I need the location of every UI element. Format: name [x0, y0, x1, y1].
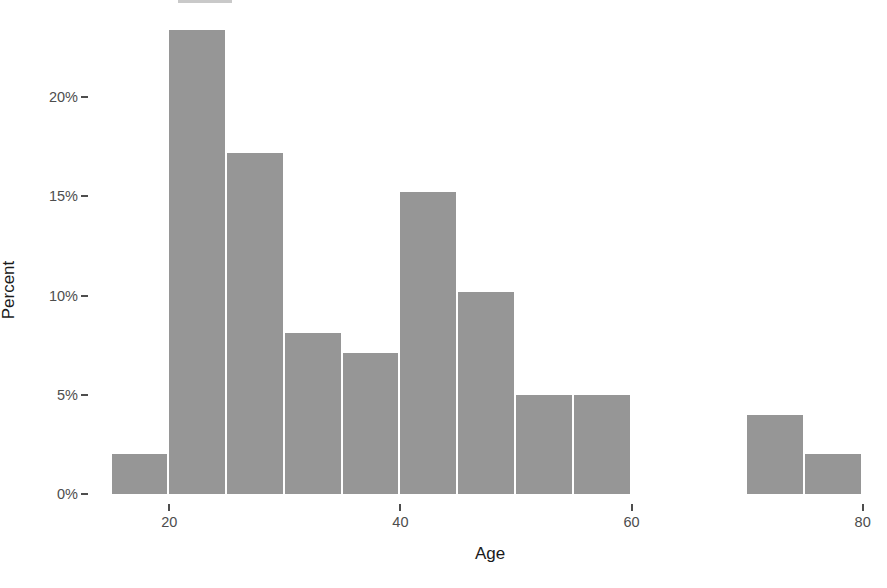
x-tick-label: 20 [161, 514, 177, 530]
plot-panel [100, 8, 880, 494]
x-tick-label: 40 [392, 514, 408, 530]
histogram-bar [343, 353, 399, 494]
top-edge-artifact [178, 0, 232, 3]
y-axis-title: Percent [0, 261, 19, 320]
x-tick-mark [862, 504, 864, 511]
histogram-bar [574, 395, 630, 494]
histogram-bar [458, 292, 514, 494]
histogram-bar [516, 395, 572, 494]
y-tick-mark [81, 195, 88, 197]
x-tick-label: 80 [855, 514, 871, 530]
y-tick-label: 20% [49, 89, 78, 105]
x-tick-mark [399, 504, 401, 511]
histogram-bar [227, 153, 283, 494]
y-tick-label: 10% [49, 288, 78, 304]
x-tick-label: 60 [623, 514, 639, 530]
histogram-bar [747, 415, 803, 494]
x-axis: 20406080 Age [0, 494, 887, 588]
histogram-bar [400, 192, 456, 494]
x-tick-mark [631, 504, 633, 511]
y-tick-label: 15% [49, 188, 78, 204]
y-tick-label: 5% [57, 387, 78, 403]
histogram-bar [112, 454, 168, 494]
y-tick-mark [81, 96, 88, 98]
y-tick-mark [81, 394, 88, 396]
histogram-bar [169, 30, 225, 494]
y-tick-mark [81, 295, 88, 297]
histogram-bar [285, 333, 341, 494]
histogram-chart: 0%5%10%15%20% Percent 20406080 Age [0, 0, 887, 588]
x-tick-mark [168, 504, 170, 511]
x-axis-title: Age [475, 544, 505, 564]
histogram-bar [805, 454, 861, 494]
